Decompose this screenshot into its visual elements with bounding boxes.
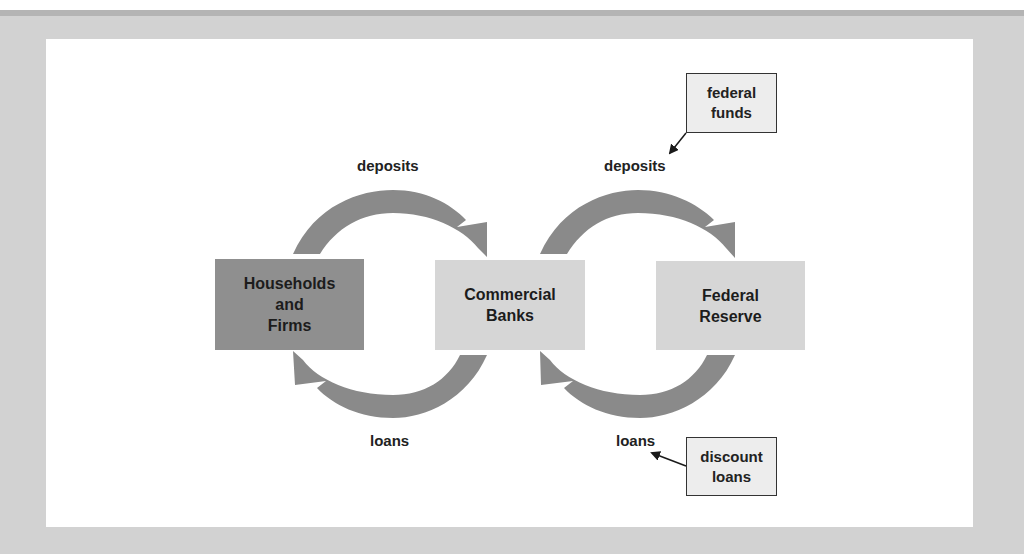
node-federal-reserve: Federal Reserve [656, 261, 805, 350]
node-commercial-banks-label: Commercial Banks [464, 284, 556, 326]
page: Households and Firms Commercial Banks Fe… [0, 0, 1024, 554]
node-households-label: Households and Firms [244, 273, 336, 336]
loans-arrow-fed-to-banks [540, 351, 735, 418]
deposits-arrow-households-to-banks [293, 190, 487, 257]
label-deposits-households: deposits [357, 157, 419, 174]
deposits-arrow-banks-to-fed [540, 190, 735, 258]
callout-discount-loans: discount loans [686, 437, 777, 496]
callout-discount-loans-label: discount loans [700, 447, 763, 487]
node-households-and-firms: Households and Firms [215, 259, 364, 350]
label-loans-households: loans [370, 432, 409, 449]
callout-federal-funds-label: federal funds [707, 83, 756, 123]
loans-arrow-banks-to-households [293, 351, 487, 418]
callout-federal-funds: federal funds [686, 73, 777, 133]
node-federal-reserve-label: Federal Reserve [699, 285, 761, 327]
node-commercial-banks: Commercial Banks [435, 260, 585, 350]
federal-funds-pointer [670, 133, 686, 153]
label-loans-banks: loans [616, 432, 655, 449]
label-deposits-banks: deposits [604, 157, 666, 174]
discount-loans-pointer [652, 453, 686, 466]
